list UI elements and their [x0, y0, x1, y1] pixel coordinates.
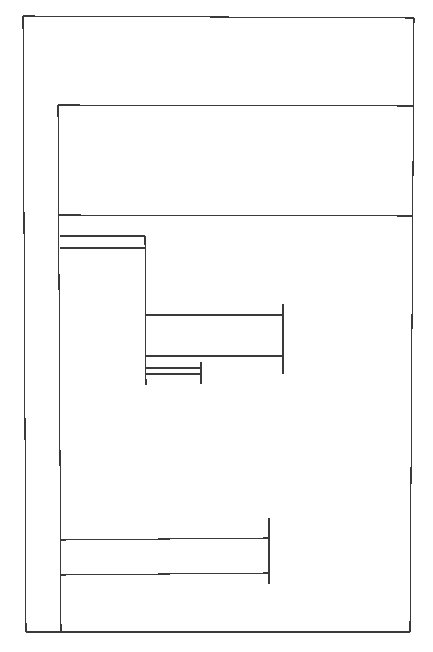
outer-frame-top — [23, 16, 414, 18]
diagram-canvas — [0, 0, 433, 652]
inner-frame — [58, 105, 413, 632]
outer-frame-right — [410, 18, 414, 632]
bracket-c — [146, 362, 201, 384]
bracket-d-bar-bottom — [61, 573, 269, 575]
inner-frame-left — [58, 105, 61, 632]
bracket-a-stem — [145, 236, 146, 385]
bracket-d-bar-top — [61, 538, 269, 540]
bracket-a — [60, 236, 146, 385]
bracket-d — [61, 518, 269, 584]
outer-frame-left — [23, 16, 26, 632]
bracket-b — [146, 304, 283, 374]
header-band-divider — [59, 215, 413, 216]
inner-frame-top — [58, 105, 413, 106]
